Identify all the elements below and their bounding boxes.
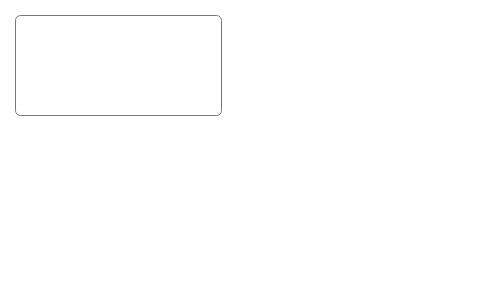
subprocess-box — [17, 17, 224, 116]
subprocess-book-travel[interactable] — [16, 15, 225, 116]
subprocess-container — [17, 17, 224, 116]
bpmn-diagram — [0, 0, 502, 298]
subprocess-frame[interactable] — [16, 16, 225, 115]
subprocess-rect — [17, 17, 223, 116]
subprocess-border — [20, 16, 224, 21]
